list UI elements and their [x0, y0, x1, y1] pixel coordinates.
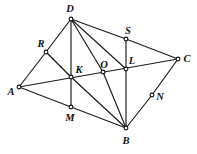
- vertex-label-o: O: [100, 60, 108, 71]
- vertex-label-n: N: [156, 92, 164, 103]
- edge-a-c: [19, 59, 178, 87]
- edge-k-b: [71, 77, 126, 128]
- edge-a-m: [19, 87, 71, 107]
- vertex-o: [101, 70, 105, 74]
- vertex-label-m: M: [65, 113, 74, 124]
- edges-group: [19, 19, 178, 128]
- edge-d-l: [71, 19, 126, 69]
- figure-canvas: [0, 0, 197, 154]
- vertex-s: [124, 37, 128, 41]
- vertex-label-s: S: [125, 26, 131, 37]
- vertex-k: [69, 75, 73, 79]
- vertex-c: [176, 57, 180, 61]
- vertex-label-a: A: [7, 87, 14, 98]
- edge-r-k: [46, 52, 71, 77]
- edge-n-b: [126, 95, 152, 128]
- vertex-d: [69, 17, 73, 21]
- vertex-l: [124, 67, 128, 71]
- vertex-label-l: L: [129, 56, 135, 67]
- vertex-label-r: R: [37, 39, 44, 50]
- vertex-label-d: D: [66, 4, 74, 15]
- edge-r-d: [46, 19, 71, 52]
- edge-c-n: [152, 59, 178, 95]
- vertex-b: [124, 126, 128, 130]
- vertex-label-b: B: [122, 136, 129, 147]
- vertex-a: [17, 85, 21, 89]
- vertex-label-c: C: [183, 54, 190, 65]
- edge-a-r: [19, 52, 46, 87]
- vertex-n: [150, 93, 154, 97]
- vertex-r: [44, 50, 48, 54]
- edge-o-b: [103, 72, 126, 128]
- geometry-figure: ARDKMOSLBNC: [0, 0, 197, 154]
- edge-d-s: [71, 19, 126, 39]
- vertex-m: [69, 105, 73, 109]
- edge-m-b: [71, 107, 126, 128]
- vertex-label-k: K: [75, 65, 82, 76]
